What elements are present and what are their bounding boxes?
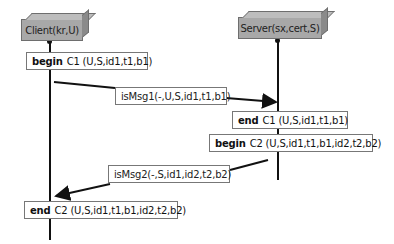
message-label: isMsg2(-,S,id1,id2,t2,b2) (114, 169, 231, 180)
server-lifeline (277, 40, 279, 180)
event-keyword: end (238, 115, 258, 126)
message-label: isMsg1(-,U,S,id1,t1,b1) (121, 91, 230, 102)
event-label: C2 (U,S,id1,t1,b1,id2,t2,b2) (250, 138, 382, 149)
event-label: C1 (U,S,id1,t1,b1) (67, 56, 153, 67)
event-keyword: begin (215, 138, 246, 149)
event-keyword: end (30, 205, 50, 216)
event-end-c2: end C2 (U,S,id1,t1,b1,id2,t2,b2) (24, 201, 178, 219)
message-ismsg1: isMsg1(-,U,S,id1,t1,b1) (115, 87, 227, 105)
event-keyword: begin (32, 56, 63, 67)
event-label: C2 (U,S,id1,t1,b1,id2,t2,b2) (54, 205, 186, 216)
event-begin-c1: begin C1 (U,S,id1,t1,b1) (26, 52, 148, 70)
sequence-diagram: Client(kr,U) Server(sx,cert,S) begin C1 … (0, 0, 394, 244)
actor-client: Client(kr,U) (21, 19, 83, 41)
actor-client-label: Client(kr,U) (25, 25, 79, 36)
actor-server: Server(sx,cert,S) (238, 17, 322, 39)
event-label: C1 (U,S,id1,t1,b1) (262, 115, 348, 126)
event-begin-c2: begin C2 (U,S,id1,t1,b1,id2,t2,b2) (209, 134, 373, 152)
actor-server-label: Server(sx,cert,S) (240, 23, 319, 34)
event-end-c1: end C1 (U,S,id1,t1,b1) (232, 111, 348, 129)
message-ismsg2: isMsg2(-,S,id1,id2,t2,b2) (108, 165, 230, 183)
